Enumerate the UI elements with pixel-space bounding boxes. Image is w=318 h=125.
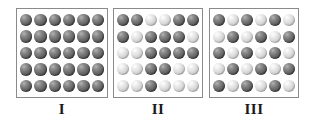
sphere-ii-r3c4-dark xyxy=(159,47,171,59)
sphere-iii-r2c5-light xyxy=(269,31,281,43)
sphere-iii-r2c2-dark xyxy=(227,31,239,43)
sphere-iii-r5c4-light xyxy=(255,80,267,92)
sphere-ii-r1c4-light xyxy=(159,14,171,26)
sphere-ii-r1c3-light xyxy=(145,14,157,26)
sphere-ii-r3c1-light xyxy=(117,47,129,59)
sphere-iii-r4c1-light xyxy=(213,63,225,75)
sphere-i-r2c4-dark xyxy=(63,30,75,42)
sphere-iii-r2c1-light xyxy=(213,31,225,43)
sphere-i-r3c4-dark xyxy=(63,47,75,59)
sphere-i-r1c5-dark xyxy=(77,14,89,26)
sphere-ii-r2c1-dark xyxy=(117,31,129,43)
sphere-i-r5c2-dark xyxy=(34,80,46,92)
panel-i: I xyxy=(16,8,108,117)
sphere-iii-r3c3-dark xyxy=(241,47,253,59)
sphere-i-r1c6-dark xyxy=(92,14,104,26)
sphere-ii-r1c5-dark xyxy=(173,14,185,26)
sphere-iii-r3c2-light xyxy=(227,47,239,59)
sphere-iii-r1c4-light xyxy=(255,14,267,26)
sphere-ii-r1c1-dark xyxy=(117,14,129,26)
sphere-ii-r3c3-dark xyxy=(145,47,157,59)
sphere-iii-r5c2-light xyxy=(227,80,239,92)
sphere-i-r1c2-dark xyxy=(34,14,46,26)
particle-diagram-figure: I II III xyxy=(0,0,318,125)
sphere-iii-r1c2-light xyxy=(227,14,239,26)
sphere-i-r5c3-dark xyxy=(49,80,61,92)
sphere-i-r1c1-dark xyxy=(20,14,32,26)
sphere-ii-r2c3-dark xyxy=(145,31,157,43)
panel-ii-box xyxy=(113,8,203,98)
sphere-iii-r3c1-dark xyxy=(213,47,225,59)
sphere-i-r4c3-dark xyxy=(49,63,61,75)
sphere-ii-r4c6-light xyxy=(187,63,199,75)
sphere-ii-r2c6-light xyxy=(187,31,199,43)
sphere-ii-r5c5-light xyxy=(173,80,185,92)
sphere-ii-r2c4-dark xyxy=(159,31,171,43)
sphere-iii-r4c5-light xyxy=(269,63,281,75)
sphere-i-r4c5-dark xyxy=(77,63,89,75)
sphere-i-r4c1-dark xyxy=(20,63,32,75)
sphere-ii-r1c6-dark xyxy=(187,14,199,26)
sphere-i-r3c1-dark xyxy=(20,47,32,59)
sphere-ii-r4c3-dark xyxy=(145,63,157,75)
sphere-i-r3c3-dark xyxy=(49,47,61,59)
panel-i-label: I xyxy=(16,102,108,117)
sphere-i-r2c6-dark xyxy=(92,30,104,42)
sphere-iii-r4c3-light xyxy=(241,63,253,75)
sphere-ii-r4c5-light xyxy=(173,63,185,75)
sphere-iii-r1c1-dark xyxy=(213,14,225,26)
sphere-i-r2c3-dark xyxy=(49,30,61,42)
sphere-i-r5c1-dark xyxy=(20,80,32,92)
sphere-ii-r1c2-dark xyxy=(131,14,143,26)
sphere-i-r3c5-dark xyxy=(77,47,89,59)
sphere-ii-r4c2-light xyxy=(131,63,143,75)
sphere-i-r1c3-dark xyxy=(49,14,61,26)
sphere-iii-r1c3-dark xyxy=(241,14,253,26)
sphere-ii-r4c4-dark xyxy=(159,63,171,75)
sphere-ii-r5c1-light xyxy=(117,80,129,92)
sphere-ii-r3c6-dark xyxy=(187,47,199,59)
sphere-i-r3c6-dark xyxy=(92,47,104,59)
sphere-i-r2c1-dark xyxy=(20,30,32,42)
sphere-i-r2c5-dark xyxy=(77,30,89,42)
sphere-iii-r2c3-light xyxy=(241,31,253,43)
sphere-iii-r1c5-dark xyxy=(269,14,281,26)
sphere-iii-r3c5-dark xyxy=(269,47,281,59)
sphere-iii-r3c6-light xyxy=(283,47,295,59)
sphere-iii-r4c6-dark xyxy=(283,63,295,75)
sphere-ii-r4c1-light xyxy=(117,63,129,75)
sphere-ii-r5c3-dark xyxy=(145,80,157,92)
sphere-ii-r2c2-light xyxy=(131,31,143,43)
sphere-iii-r5c3-dark xyxy=(241,80,253,92)
sphere-ii-r5c4-light xyxy=(159,80,171,92)
sphere-i-r4c4-dark xyxy=(63,63,75,75)
sphere-iii-r4c4-dark xyxy=(255,63,267,75)
panel-iii: III xyxy=(209,8,299,117)
panel-iii-label: III xyxy=(209,102,299,117)
sphere-iii-r5c6-light xyxy=(283,80,295,92)
sphere-ii-r5c6-light xyxy=(187,80,199,92)
sphere-iii-r5c5-dark xyxy=(269,80,281,92)
panel-i-box xyxy=(16,8,108,98)
sphere-i-r3c2-dark xyxy=(34,47,46,59)
panel-ii: II xyxy=(113,8,203,117)
sphere-iii-r2c4-dark xyxy=(255,31,267,43)
sphere-i-r4c6-dark xyxy=(92,63,104,75)
sphere-iii-r4c2-dark xyxy=(227,63,239,75)
sphere-iii-r5c1-dark xyxy=(213,80,225,92)
sphere-ii-r3c5-dark xyxy=(173,47,185,59)
sphere-i-r1c4-dark xyxy=(63,14,75,26)
sphere-ii-r3c2-light xyxy=(131,47,143,59)
sphere-i-r2c2-dark xyxy=(34,30,46,42)
sphere-iii-r2c6-dark xyxy=(283,31,295,43)
sphere-ii-r5c2-light xyxy=(131,80,143,92)
sphere-i-r5c5-dark xyxy=(77,80,89,92)
sphere-i-r5c4-dark xyxy=(63,80,75,92)
panel-ii-label: II xyxy=(113,102,203,117)
panel-iii-box xyxy=(209,8,299,98)
sphere-iii-r3c4-light xyxy=(255,47,267,59)
sphere-i-r4c2-dark xyxy=(34,63,46,75)
sphere-ii-r2c5-dark xyxy=(173,31,185,43)
sphere-i-r5c6-dark xyxy=(92,80,104,92)
sphere-iii-r1c6-light xyxy=(283,14,295,26)
